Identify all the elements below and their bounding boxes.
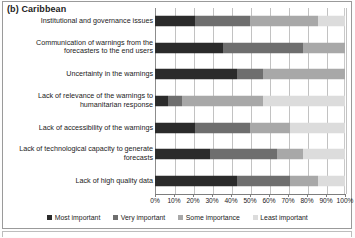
legend-item[interactable]: Very important — [113, 214, 165, 221]
stacked-bar[interactable] — [155, 175, 345, 186]
bar-segment[interactable] — [250, 122, 290, 133]
legend-item[interactable]: Least important — [253, 214, 308, 221]
axis-tick — [212, 194, 213, 197]
bar-segment[interactable] — [155, 122, 195, 133]
legend-item[interactable]: Some importance — [178, 214, 240, 221]
category-label: Lack of technological capacity to genera… — [5, 146, 153, 163]
legend-label: Most important — [55, 214, 101, 221]
x-tick-label: 70% — [281, 197, 294, 204]
chart-row: Lack of accessibility of the warnings — [0, 114, 355, 141]
bar-segment[interactable] — [318, 175, 345, 186]
bar-segment[interactable] — [210, 149, 277, 160]
bar-segment[interactable] — [155, 69, 237, 80]
legend-swatch-icon — [47, 215, 52, 220]
legend-swatch-icon — [253, 215, 258, 220]
bar-segment[interactable] — [155, 149, 210, 160]
bar-segment[interactable] — [155, 42, 223, 53]
axis-tick — [155, 194, 156, 197]
chart-figure: (b) Caribbean Institutional and governan… — [0, 0, 355, 238]
bar-segment[interactable] — [303, 149, 345, 160]
x-tick-label: 10% — [167, 197, 180, 204]
chart-row: Institutional and governance issues — [0, 8, 355, 35]
chart-row: Lack of technological capacity to genera… — [0, 141, 355, 168]
category-label: Lack of high quality data — [5, 176, 153, 185]
chart-row: Lack of relevance of the warnings to hum… — [0, 88, 355, 115]
legend-label: Very important — [121, 214, 165, 221]
chart-row: Lack of high quality data — [0, 167, 355, 194]
category-label: Uncertainty in the warnings — [5, 70, 153, 79]
category-label: Communication of warnings from the forec… — [5, 39, 153, 56]
x-tick-label: 90% — [319, 197, 332, 204]
x-tick-label: 30% — [205, 197, 218, 204]
axis-tick — [269, 194, 270, 197]
axis-tick — [288, 194, 289, 197]
legend-label: Least important — [260, 214, 308, 221]
category-label: Lack of accessibility of the warnings — [5, 123, 153, 132]
x-tick-label: 80% — [300, 197, 313, 204]
legend-label: Some importance — [186, 214, 240, 221]
chart-row: Uncertainty in the warnings — [0, 61, 355, 88]
bar-segment[interactable] — [155, 175, 237, 186]
bar-segment[interactable] — [237, 175, 290, 186]
stacked-bar[interactable] — [155, 122, 345, 133]
axis-tick — [326, 194, 327, 197]
bar-rows: Institutional and governance issuesCommu… — [0, 8, 355, 194]
x-tick-label: 20% — [186, 197, 199, 204]
category-label: Lack of relevance of the warnings to hum… — [5, 92, 153, 109]
axis-tick — [193, 194, 194, 197]
bar-segment[interactable] — [318, 16, 345, 27]
axis-tick — [231, 194, 232, 197]
legend-item[interactable]: Most important — [47, 214, 100, 221]
bar-segment[interactable] — [223, 42, 303, 53]
bar-segment[interactable] — [290, 122, 345, 133]
axis-tick — [174, 194, 175, 197]
x-axis-tick-labels: 0%10%20%30%40%50%60%70%80%90%100% — [0, 197, 355, 207]
bar-segment[interactable] — [250, 16, 318, 27]
x-tick-label: 100% — [337, 197, 354, 204]
stacked-bar[interactable] — [155, 16, 345, 27]
stacked-bar[interactable] — [155, 95, 345, 106]
bar-segment[interactable] — [155, 16, 195, 27]
stacked-bar[interactable] — [155, 149, 345, 160]
x-tick-label: 50% — [243, 197, 256, 204]
bar-segment[interactable] — [237, 69, 264, 80]
bar-segment[interactable] — [168, 95, 181, 106]
stacked-bar[interactable] — [155, 42, 345, 53]
category-label: Institutional and governance issues — [5, 17, 153, 26]
chart-legend: Most importantVery importantSome importa… — [0, 211, 355, 223]
bar-segment[interactable] — [195, 122, 250, 133]
bar-segment[interactable] — [263, 69, 345, 80]
figure-bottom-strip — [2, 231, 352, 237]
chart-row: Communication of warnings from the forec… — [0, 35, 355, 62]
x-tick-label: 40% — [224, 197, 237, 204]
bar-segment[interactable] — [303, 42, 345, 53]
bar-segment[interactable] — [195, 16, 250, 27]
legend-swatch-icon — [178, 215, 183, 220]
bar-segment[interactable] — [155, 95, 168, 106]
legend-swatch-icon — [113, 215, 118, 220]
axis-tick — [307, 194, 308, 197]
stacked-bar[interactable] — [155, 69, 345, 80]
x-tick-label: 60% — [262, 197, 275, 204]
bar-segment[interactable] — [182, 95, 264, 106]
bar-segment[interactable] — [263, 95, 345, 106]
bar-segment[interactable] — [290, 175, 319, 186]
x-tick-label: 0% — [150, 197, 160, 204]
bar-segment[interactable] — [277, 149, 304, 160]
axis-tick — [250, 194, 251, 197]
axis-tick — [345, 194, 346, 197]
